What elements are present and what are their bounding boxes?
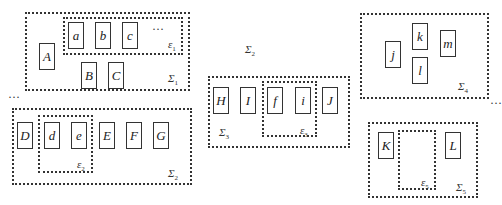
node-i: i [295, 87, 311, 114]
group-epsilon-5 [398, 130, 436, 190]
node-C: C [108, 62, 124, 89]
label-epsilon-3: ε3 [300, 124, 308, 139]
node-D: D [17, 122, 33, 149]
label-sigma-1: Σ1 [168, 72, 178, 87]
node-b: b [95, 22, 111, 49]
node-H: H [213, 87, 229, 114]
node-L: L [445, 132, 461, 159]
label-sigma-3: Σ3 [219, 126, 229, 141]
node-K: K [378, 132, 394, 159]
node-F: F [126, 122, 142, 149]
node-m: m [440, 30, 456, 57]
label-sigma-5: Σ5 [456, 181, 466, 196]
node-a: a [68, 22, 84, 49]
node-j: j [385, 41, 401, 68]
node-d: d [44, 122, 60, 149]
label-sigma-4: Σ4 [458, 80, 468, 95]
label-epsilon-1: ε1 [168, 38, 176, 53]
node-c: c [122, 22, 138, 49]
node-k: k [412, 23, 428, 50]
ellipsis-epsilon-1: ··· [152, 22, 164, 37]
node-e: e [71, 122, 87, 149]
label-epsilon-2: ε2 [77, 158, 85, 173]
node-A: A [39, 43, 55, 70]
label-epsilon-5: ε5 [421, 176, 429, 191]
ellipsis-left: ··· [8, 90, 20, 105]
node-G: G [153, 122, 169, 149]
ellipsis-right: ··· [490, 96, 502, 111]
node-I: I [240, 87, 256, 114]
label-sigma-top: Σ2 [245, 43, 255, 58]
node-E: E [99, 122, 115, 149]
node-B: B [81, 62, 97, 89]
node-J: J [322, 87, 338, 114]
node-l: l [412, 57, 428, 84]
node-f: f [267, 87, 283, 114]
label-sigma-2: Σ2 [168, 167, 178, 182]
